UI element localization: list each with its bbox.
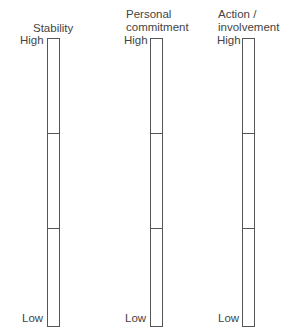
scale-bar xyxy=(47,38,60,327)
low-label: Low xyxy=(218,312,239,324)
scale-title: Action / involvement xyxy=(218,8,279,34)
low-label: Low xyxy=(125,312,146,324)
segment-divider xyxy=(151,133,162,134)
scale-bar xyxy=(242,38,255,327)
scale-title: Personal commitment xyxy=(126,8,189,34)
segment-divider xyxy=(48,228,59,229)
scale-bar xyxy=(150,38,163,327)
segment-divider xyxy=(243,133,254,134)
high-label: High xyxy=(124,34,148,46)
segment-divider xyxy=(243,228,254,229)
segment-divider xyxy=(151,228,162,229)
low-label: Low xyxy=(22,312,43,324)
high-label: High xyxy=(20,34,44,46)
segment-divider xyxy=(48,133,59,134)
high-label: High xyxy=(217,34,241,46)
